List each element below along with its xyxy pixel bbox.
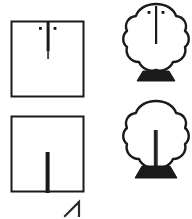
elevation-top-dot-right [162,11,165,14]
plan-top-trunk-line [47,21,50,51]
plan-bottom-trunk-bar [46,152,50,193]
elevation-bottom-base [135,166,177,178]
plan-top-trunk-tip [47,51,49,59]
elevation-top-trunk-line [155,6,157,44]
tree-trunk-diagram [0,0,192,219]
elevation-top-dot-left [148,11,151,14]
plan-top-dot-right [54,27,57,30]
plan-top-dot-left [39,27,42,30]
elevation-bottom-trunk-core [155,130,157,169]
elevation-top-base [137,71,175,81]
diagram-canvas: plan-view-top plan-view-bottom elevation… [0,0,192,219]
